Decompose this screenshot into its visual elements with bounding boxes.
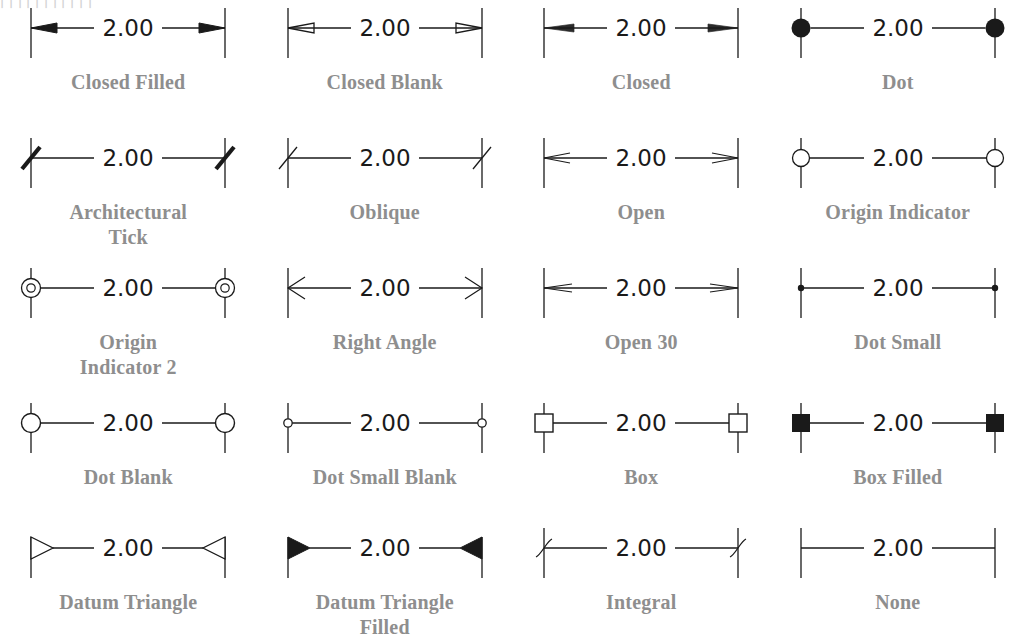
dimension-value-text: 2.00 (616, 535, 667, 561)
arrowhead-cell-closed-blank[interactable]: 2.00Closed Blank (257, 0, 514, 130)
dimension-figure-architectural-tick: 2.00 (13, 136, 243, 198)
arrowhead-cell-right-angle[interactable]: 2.00Right Angle (257, 260, 514, 395)
arrowhead-cell-dot-small[interactable]: 2.00Dot Small (770, 260, 1026, 395)
dimension-value-text: 2.00 (616, 275, 667, 301)
arrowhead-cell-datum-triangle[interactable]: 2.00Datum Triangle (0, 520, 257, 640)
arrowhead-cell-dot-small-blank[interactable]: 2.00Dot Small Blank (257, 395, 514, 520)
arrowhead-label-closed-filled: Closed Filled (71, 70, 185, 95)
dimension-value-text: 2.00 (872, 145, 923, 171)
dimension-figure-origin-indicator: 2.00 (783, 136, 1013, 198)
dimension-figure-open-30: 2.00 (526, 266, 756, 328)
arrowhead-label-dot-small: Dot Small (854, 330, 941, 355)
arrowhead-label-closed: Closed (612, 70, 671, 95)
dimension-figure-datum-triangle-filled: 2.00 (270, 526, 500, 588)
arrowhead-cell-architectural-tick[interactable]: 2.00Architectural Tick (0, 130, 257, 260)
arrowhead-cell-integral[interactable]: 2.00Integral (513, 520, 770, 640)
arrowhead-cell-box-filled[interactable]: 2.00Box Filled (770, 395, 1026, 520)
dimension-figure-right-angle: 2.00 (270, 266, 500, 328)
dimension-figure-none: 2.00 (783, 526, 1013, 588)
arrowhead-cell-dot-blank[interactable]: 2.00Dot Blank (0, 395, 257, 520)
arrowhead-label-closed-blank: Closed Blank (327, 70, 443, 95)
dimension-figure-dot-blank: 2.00 (13, 401, 243, 463)
arrowhead-label-right-angle: Right Angle (333, 330, 437, 355)
dimension-value-text: 2.00 (103, 535, 154, 561)
dimension-value-text: 2.00 (616, 145, 667, 171)
arrowhead-cell-dot[interactable]: 2.00Dot (770, 0, 1026, 130)
dimension-figure-dot-small-blank: 2.00 (270, 401, 500, 463)
dimension-value-text: 2.00 (872, 15, 923, 41)
arrowhead-cell-datum-triangle-filled[interactable]: 2.00Datum Triangle Filled (257, 520, 514, 640)
arrowhead-label-box: Box (624, 465, 658, 490)
arrowhead-label-dot-small-blank: Dot Small Blank (313, 465, 457, 490)
dimension-figure-integral: 2.00 (526, 526, 756, 588)
arrowhead-cell-box[interactable]: 2.00Box (513, 395, 770, 520)
dimension-figure-datum-triangle: 2.00 (13, 526, 243, 588)
dimension-figure-dot-small: 2.00 (783, 266, 1013, 328)
arrowhead-cell-closed[interactable]: 2.00Closed (513, 0, 770, 130)
dimension-value-text: 2.00 (103, 15, 154, 41)
arrowhead-label-open: Open (618, 200, 665, 225)
dimension-figure-box: 2.00 (526, 401, 756, 463)
dimension-value-text: 2.00 (872, 535, 923, 561)
dimension-figure-origin-indicator-2: 2.00 (13, 266, 243, 328)
arrowhead-label-none: None (875, 590, 920, 615)
dimension-value-text: 2.00 (359, 15, 410, 41)
arrowhead-label-architectural-tick: Architectural Tick (69, 200, 187, 250)
arrowhead-cell-none[interactable]: 2.00None (770, 520, 1026, 640)
arrowhead-label-oblique: Oblique (350, 200, 420, 225)
dimension-figure-closed-blank: 2.00 (270, 6, 500, 68)
arrowhead-label-dot-blank: Dot Blank (84, 465, 173, 490)
arrowhead-label-integral: Integral (606, 590, 676, 615)
dimension-value-text: 2.00 (359, 275, 410, 301)
dimension-value-text: 2.00 (872, 275, 923, 301)
dimension-figure-closed: 2.00 (526, 6, 756, 68)
arrowhead-label-origin-indicator: Origin Indicator (825, 200, 970, 225)
dimension-value-text: 2.00 (616, 15, 667, 41)
arrowhead-label-datum-triangle-filled: Datum Triangle Filled (316, 590, 454, 640)
dimension-figure-open: 2.00 (526, 136, 756, 198)
arrowhead-cell-origin-indicator-2[interactable]: 2.00Origin Indicator 2 (0, 260, 257, 395)
dimension-figure-closed-filled: 2.00 (13, 6, 243, 68)
dimension-value-text: 2.00 (616, 410, 667, 436)
dimension-value-text: 2.00 (359, 410, 410, 436)
dimension-value-text: 2.00 (359, 145, 410, 171)
arrowhead-label-datum-triangle: Datum Triangle (59, 590, 197, 615)
dimension-figure-box-filled: 2.00 (783, 401, 1013, 463)
arrowhead-cell-closed-filled[interactable]: 2.00Closed Filled (0, 0, 257, 130)
dimension-figure-dot: 2.00 (783, 6, 1013, 68)
arrowhead-label-origin-indicator-2: Origin Indicator 2 (80, 330, 177, 380)
arrowhead-cell-open-30[interactable]: 2.00Open 30 (513, 260, 770, 395)
dimension-value-text: 2.00 (103, 410, 154, 436)
arrowhead-style-grid: 2.00Closed Filled2.00Closed Blank2.00Clo… (0, 0, 1026, 640)
arrowhead-label-open-30: Open 30 (605, 330, 678, 355)
arrowhead-cell-origin-indicator[interactable]: 2.00Origin Indicator (770, 130, 1026, 260)
arrowhead-label-box-filled: Box Filled (853, 465, 942, 490)
dimension-value-text: 2.00 (359, 535, 410, 561)
arrowhead-label-dot: Dot (882, 70, 914, 95)
dimension-value-text: 2.00 (103, 145, 154, 171)
dimension-figure-oblique: 2.00 (270, 136, 500, 198)
dimension-value-text: 2.00 (872, 410, 923, 436)
dimension-value-text: 2.00 (103, 275, 154, 301)
arrowhead-cell-open[interactable]: 2.00Open (513, 130, 770, 260)
arrowhead-cell-oblique[interactable]: 2.00Oblique (257, 130, 514, 260)
